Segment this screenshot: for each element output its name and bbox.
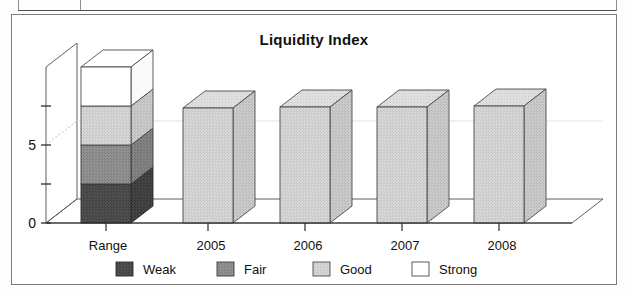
chart-legend: Weak Fair Good Strong: [116, 262, 477, 277]
x-axis-labels: Range 2005 2006 2007 2008: [89, 238, 517, 253]
y-axis-label-5: 5: [28, 137, 36, 153]
y-axis-label-0: 0: [28, 215, 36, 231]
table-bottom-rule: [18, 10, 616, 11]
table-cell-2: 13.4: [406, 0, 426, 2]
category-label-2007: 2007: [391, 238, 420, 253]
chart-page: 0.12 13.4 16.6 5.5 Liquidity Index: [0, 0, 631, 297]
bar-2006[interactable]: [280, 90, 352, 223]
legend-label-fair: Fair: [244, 262, 267, 277]
chart-container: Liquidity Index: [11, 14, 617, 285]
category-label-2008: 2008: [488, 238, 517, 253]
x-axis: [46, 223, 572, 231]
legend-item-strong[interactable]: Strong: [412, 262, 477, 277]
bar-range[interactable]: [81, 50, 153, 223]
legend-swatch-strong: [412, 262, 429, 276]
y-axis: 0 5: [28, 106, 51, 231]
cut-off-table-row: 0.12 13.4 16.6 5.5: [0, 0, 631, 12]
chart-plot: 0 5: [12, 15, 618, 286]
bar-2007[interactable]: [377, 90, 449, 223]
legend-label-good: Good: [340, 262, 372, 277]
legend-swatch-weak: [116, 262, 133, 276]
legend-label-strong: Strong: [439, 262, 477, 277]
legend-swatch-good: [313, 262, 330, 276]
bar-segment-strong: [81, 50, 153, 106]
bar-2005[interactable]: [183, 91, 255, 223]
legend-label-weak: Weak: [143, 262, 176, 277]
bar-2008[interactable]: [474, 89, 546, 223]
category-label-range: Range: [89, 238, 127, 253]
table-border-right: [616, 0, 617, 11]
axis-back-wall: [46, 43, 77, 223]
category-label-2005: 2005: [197, 238, 226, 253]
table-cell-4: 5.5: [580, 0, 595, 2]
legend-item-good[interactable]: Good: [313, 262, 372, 277]
legend-item-weak[interactable]: Weak: [116, 262, 176, 277]
category-label-2006: 2006: [294, 238, 323, 253]
legend-item-fair[interactable]: Fair: [217, 262, 267, 277]
table-cell-1: 0.12: [326, 0, 346, 2]
legend-swatch-fair: [217, 262, 234, 276]
table-cell-3: 16.6: [486, 0, 506, 2]
